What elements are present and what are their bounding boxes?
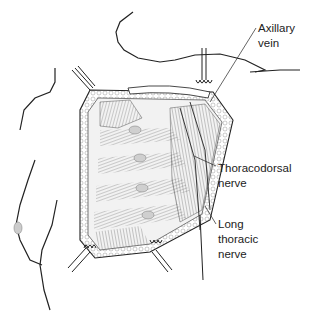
label-line: thoracic: [218, 232, 258, 247]
label-line: vein: [258, 36, 295, 51]
label-line: nerve: [218, 176, 292, 191]
surgical-field: [80, 86, 233, 258]
label-axillary-vein: Axillary vein: [258, 21, 295, 51]
label-line: Long: [218, 217, 258, 232]
nipple-shape: [14, 222, 22, 234]
label-thoracodorsal-nerve: Thoracodorsal nerve: [218, 161, 292, 191]
label-line: Thoracodorsal: [218, 161, 292, 176]
label-line: Axillary: [258, 21, 295, 36]
label-long-thoracic-nerve: Long thoracic nerve: [218, 217, 258, 262]
label-line: nerve: [218, 247, 258, 262]
